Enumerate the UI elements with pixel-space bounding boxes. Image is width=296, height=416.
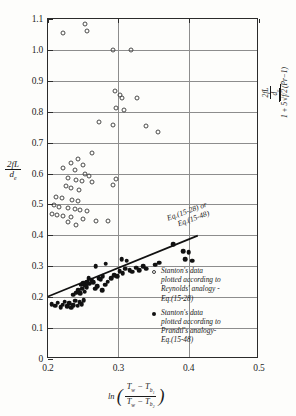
y-tick-label: 0.7 — [32, 138, 48, 148]
y-tick-mark — [48, 112, 53, 113]
y-tick-label: 0.5 — [32, 199, 48, 209]
y-tick-label: 0.8 — [32, 107, 48, 117]
legend-prandtl-line3: Prandtl's analogy- — [161, 326, 258, 335]
y-tick-label: 0.3 — [32, 261, 48, 271]
x-tick-mark — [118, 19, 119, 23]
legend-marker-open-circle-icon — [150, 266, 157, 303]
y-tick-mark — [48, 50, 53, 51]
legend-item-prandtl: Stanton's data plotted according to Pran… — [150, 308, 258, 345]
y-tick-mark — [48, 143, 53, 144]
y-tick-label: 0.4 — [32, 230, 48, 240]
y-tick-mark — [48, 174, 53, 175]
legend-reynolds-line2: plotted according to — [161, 275, 258, 284]
x-tick-label: 0.4 — [183, 357, 194, 373]
y-tick-label: 0.9 — [32, 76, 48, 86]
x-tick-label: 0.2 — [42, 357, 53, 373]
legend-item-reynolds: Stanton's data plotted according to Reyn… — [150, 266, 258, 303]
y-tick-label: 0.6 — [32, 169, 48, 179]
x-tick-label: 0.3 — [113, 357, 124, 373]
y-tick-label: 1.0 — [32, 45, 48, 55]
x-tick-mark — [48, 19, 49, 23]
y-tick-mark — [48, 297, 53, 298]
legend: Stanton's data plotted according to Reyn… — [150, 266, 258, 349]
legend-text-reynolds: Stanton's data plotted according to Reyn… — [161, 266, 258, 303]
y-tick-mark — [48, 235, 53, 236]
legend-marker-filled-circle-icon — [150, 308, 157, 345]
y-tick-mark — [48, 81, 53, 82]
right-axis-label: 2fL de 1 + 5√f/2(Pr−1) — [262, 65, 289, 120]
x-axis-denominator: Tw − Tb2 — [125, 397, 157, 411]
x-tick-label: 0.5 — [253, 357, 264, 373]
legend-prandtl-line4: Eq.(15-48) — [161, 335, 258, 344]
right-axis-denominator: 1 + 5√f/2(Pr−1) — [281, 65, 289, 120]
legend-prandtl-line1: Stanton's data — [161, 308, 258, 317]
y-tick-label: 0.2 — [32, 292, 48, 302]
legend-reynolds-line1: Stanton's data — [161, 266, 258, 275]
legend-reynolds-line3: Reynolds' analogy - — [161, 284, 258, 293]
x-axis-paren-right: ) — [158, 388, 164, 404]
y-tick-mark — [48, 266, 53, 267]
y-tick-mark — [48, 328, 53, 329]
y-tick-label: 1.1 — [32, 14, 48, 24]
x-tick-mark — [189, 19, 190, 23]
y-tick-mark — [48, 204, 53, 205]
legend-reynolds-line4: Eq.(15-28) — [161, 294, 258, 303]
x-axis-ln: ln — [108, 391, 115, 401]
legend-text-prandtl: Stanton's data plotted according to Pran… — [161, 308, 258, 345]
y-axis-denominator: de — [7, 170, 18, 181]
x-axis-paren-left: ( — [117, 388, 123, 404]
x-tick-mark — [259, 19, 260, 23]
y-tick-label: 0.1 — [32, 323, 48, 333]
legend-prandtl-line2: plotted according to — [161, 317, 258, 326]
y-axis-label: 2fL de — [5, 160, 21, 181]
x-axis-label: ln ( Tw − Tb1 Tw − Tb2 ) — [108, 382, 164, 410]
x-axis-numerator: Tw − Tb1 — [125, 382, 157, 397]
figure-page: Eq.(15-28) or Eq.(15-48) 00.10.20.30.40.… — [0, 0, 296, 416]
